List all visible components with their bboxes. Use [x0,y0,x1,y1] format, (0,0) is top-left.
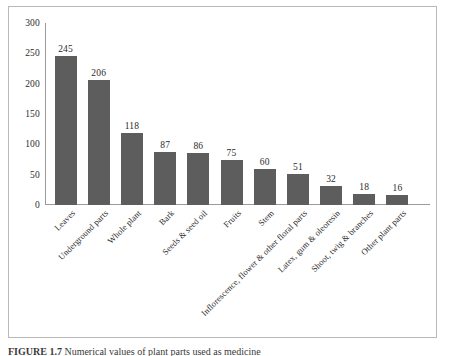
bar-group[interactable]: 18 [353,23,375,205]
bar[interactable] [254,169,276,205]
x-axis-category-label: Shoot, twig & branches [309,208,375,274]
x-axis-category-label: Whole plant [105,208,143,246]
bar-group[interactable]: 60 [254,23,276,205]
figure-root: 050100150200250300 245206118878675605132… [0,0,449,356]
bar[interactable] [287,174,309,205]
plot-area: 050100150200250300 245206118878675605132… [45,23,430,205]
bar-value-label: 16 [393,183,403,193]
bar-group[interactable]: 206 [88,23,110,205]
bar[interactable] [386,195,408,205]
x-axis-category-label: Stem [256,208,276,228]
bar-value-label: 18 [359,182,369,192]
x-axis-category-label: Latex, gum & oleoresin [276,208,342,274]
bar[interactable] [320,186,342,205]
bar[interactable] [187,153,209,205]
bar-value-label: 75 [227,148,237,158]
bar-value-label: 118 [125,121,140,131]
x-axis-category-label: Fruits [221,208,243,230]
y-axis-tick-label: 150 [25,109,45,119]
bar[interactable] [88,80,110,205]
bar[interactable] [353,194,375,205]
bar[interactable] [221,160,243,206]
x-axis-category-label: Leaves [52,208,77,233]
y-axis-tick-label: 100 [25,139,45,149]
caption-label: FIGURE 1.7 [8,346,62,356]
y-axis-tick-label: 250 [25,48,45,58]
bar-group[interactable]: 86 [187,23,209,205]
y-axis-tick-label: 50 [30,170,45,180]
bar-value-label: 206 [91,68,106,78]
figure-caption: FIGURE 1.7 Numerical values of plant par… [8,346,449,356]
y-axis-tick-label: 200 [25,79,45,89]
chart-frame: 050100150200250300 245206118878675605132… [8,6,437,338]
bar[interactable] [154,152,176,205]
bar-group[interactable]: 245 [55,23,77,205]
bar-value-label: 86 [193,141,203,151]
y-axis-tick-label: 300 [25,18,45,28]
bar-group[interactable]: 75 [221,23,243,205]
bar-group[interactable]: 118 [121,23,143,205]
bar-group[interactable]: 87 [154,23,176,205]
bar-group[interactable]: 16 [386,23,408,205]
bar-value-label: 32 [326,174,336,184]
x-axis-category-label: Bark [157,208,176,227]
bar-value-label: 51 [293,162,303,172]
bar-group[interactable]: 51 [287,23,309,205]
y-axis-tick-label: 0 [35,200,45,210]
bar[interactable] [55,56,77,205]
bar-value-label: 245 [58,44,73,54]
bar-group[interactable]: 32 [320,23,342,205]
bar[interactable] [121,133,143,205]
bar-value-label: 87 [160,140,170,150]
caption-text: Numerical values of plant parts used as … [64,346,260,356]
bar-value-label: 60 [260,157,270,167]
